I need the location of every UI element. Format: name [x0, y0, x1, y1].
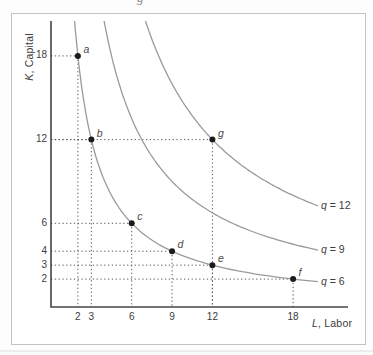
isoquant-curve-q6: [75, 21, 318, 282]
point-a: [75, 53, 81, 59]
isoquant-curve-q9: [104, 21, 318, 250]
axes: [51, 21, 348, 307]
point-g: [209, 137, 215, 143]
point-e: [209, 262, 215, 268]
scan-artifact-line: [0, 350, 373, 352]
isoquant-chart-canvas: [0, 0, 373, 355]
isoquant-curve-q12: [146, 21, 319, 206]
point-d: [169, 248, 175, 254]
figure-page: g K, Capital L, Labor q = 6q = 9q = 12ab…: [0, 0, 373, 355]
point-f: [290, 276, 296, 282]
point-c: [129, 220, 135, 226]
point-b: [88, 137, 94, 143]
